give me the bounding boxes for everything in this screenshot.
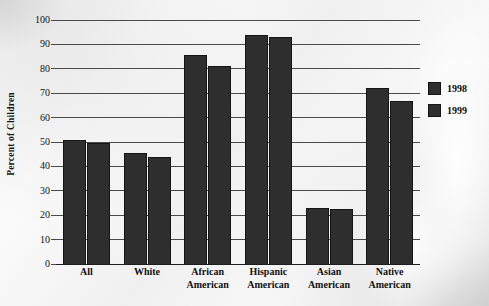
- legend-item-1998: 1998: [428, 79, 486, 97]
- y-tick-label-70: 70: [40, 88, 50, 98]
- bar-1998-native-american: [366, 88, 389, 264]
- x-label-line: Hispanic: [247, 266, 289, 279]
- x-label-all: All: [80, 266, 93, 279]
- chart-figure: Percent of Children 01020304050607080901…: [0, 0, 489, 306]
- x-label-line: All: [80, 266, 93, 279]
- bar-1999-asian-american: [330, 209, 353, 264]
- legend-swatch-1998: [428, 82, 441, 95]
- y-tick-label-30: 30: [40, 186, 50, 196]
- legend-label-1999: 1999: [447, 105, 467, 116]
- legend-item-1999: 1999: [428, 101, 486, 119]
- bar-1998-hispanic-american: [245, 35, 268, 264]
- plot-area: 0102030405060708090100 AllWhiteAfricanAm…: [56, 20, 420, 264]
- x-label-line: American: [247, 279, 289, 292]
- legend-label-1998: 1998: [447, 83, 467, 94]
- bar-1999-all: [87, 143, 110, 264]
- y-tick-label-20: 20: [40, 210, 50, 220]
- y-tick-label-50: 50: [40, 137, 50, 147]
- bar-1998-african-american: [184, 55, 207, 264]
- x-label-hispanic-american: HispanicAmerican: [247, 266, 289, 291]
- x-label-native-american: NativeAmerican: [369, 266, 411, 291]
- x-label-line: Asian: [308, 266, 350, 279]
- bar-1998-white: [124, 153, 147, 264]
- x-label-line: American: [308, 279, 350, 292]
- x-label-asian-american: AsianAmerican: [308, 266, 350, 291]
- bar-1998-all: [63, 140, 86, 264]
- y-tick-label-100: 100: [35, 15, 50, 25]
- x-label-line: American: [187, 279, 229, 292]
- bar-1999-native-american: [390, 101, 413, 264]
- x-label-line: African: [187, 266, 229, 279]
- y-axis-title-text: Percent of Children: [6, 92, 16, 176]
- y-tick-label-0: 0: [45, 259, 50, 269]
- y-tick-label-80: 80: [40, 64, 50, 74]
- x-label-african-american: AfricanAmerican: [187, 266, 229, 291]
- y-tick-label-90: 90: [40, 39, 50, 49]
- bar-1999-white: [148, 157, 171, 264]
- legend: 19981999: [428, 79, 486, 123]
- x-label-line: White: [134, 266, 160, 279]
- x-label-white: White: [134, 266, 160, 279]
- bar-1999-african-american: [208, 66, 231, 264]
- y-tick-label-40: 40: [40, 161, 50, 171]
- x-label-line: American: [369, 279, 411, 292]
- x-label-line: Native: [369, 266, 411, 279]
- bar-series-group: [56, 20, 420, 264]
- legend-swatch-1999: [428, 104, 441, 117]
- bar-1998-asian-american: [306, 208, 329, 264]
- bar-1999-hispanic-american: [269, 37, 292, 264]
- y-tick-label-10: 10: [40, 235, 50, 245]
- y-axis-title: Percent of Children: [2, 0, 20, 268]
- y-tick-label-60: 60: [40, 113, 50, 123]
